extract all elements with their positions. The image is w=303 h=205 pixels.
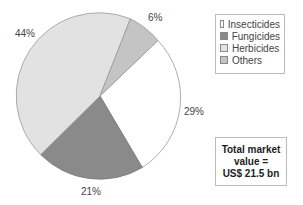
total-line-1: Total market xyxy=(216,144,286,156)
legend-swatch xyxy=(220,32,228,40)
total-line-2: value = xyxy=(216,156,286,168)
legend-item-fungicides: Fungicides xyxy=(220,30,280,42)
legend-item-others: Others xyxy=(220,54,280,66)
label-others: 6% xyxy=(148,12,162,23)
legend-swatch xyxy=(220,56,228,64)
legend-label: Insecticides xyxy=(228,19,280,30)
label-herbicides: 44% xyxy=(15,28,35,39)
legend-item-insecticides: Insecticides xyxy=(220,18,280,30)
label-fungicides: 21% xyxy=(81,186,101,197)
total-line-3: US$ 21.5 bn xyxy=(216,168,286,180)
legend-item-herbicides: Herbicides xyxy=(220,42,280,54)
legend: Insecticides Fungicides Herbicides Other… xyxy=(215,14,285,74)
legend-label: Others xyxy=(232,55,262,66)
legend-swatch xyxy=(220,20,224,28)
legend-swatch xyxy=(220,44,228,52)
legend-label: Herbicides xyxy=(232,43,279,54)
label-insecticides: 29% xyxy=(184,106,204,117)
total-market-value-box: Total market value = US$ 21.5 bn xyxy=(215,137,287,186)
legend-label: Fungicides xyxy=(232,31,280,42)
